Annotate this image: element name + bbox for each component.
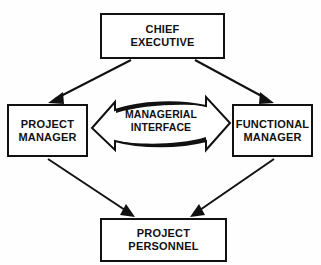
node-project-personnel[interactable]: PROJECT PERSONNEL — [100, 218, 227, 262]
node-chief-executive[interactable]: CHIEF EXECUTIVE — [100, 13, 225, 59]
connector-functional-manager-to-project-personnel — [190, 159, 274, 217]
node-project-manager[interactable]: PROJECT MANAGER — [7, 104, 88, 157]
connector-chief-executive-to-project-manager — [48, 60, 131, 104]
org-diagram: CHIEF EXECUTIVE PROJECT MANAGER FUNCTION… — [0, 0, 321, 265]
node-functional-manager[interactable]: FUNCTIONAL MANAGER — [232, 104, 313, 157]
managerial-interface-arrow — [92, 97, 230, 150]
connector-project-manager-to-project-personnel — [48, 159, 135, 217]
node-chief-executive-label: CHIEF EXECUTIVE — [130, 23, 194, 49]
node-functional-manager-label: FUNCTIONAL MANAGER — [236, 118, 310, 144]
node-project-personnel-label: PROJECT PERSONNEL — [128, 227, 198, 253]
node-project-manager-label: PROJECT MANAGER — [18, 118, 76, 144]
